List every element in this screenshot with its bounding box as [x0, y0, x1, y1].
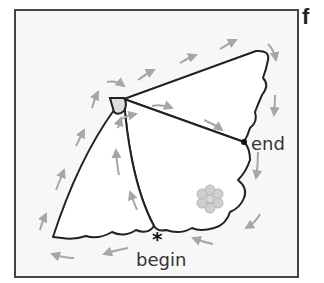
arrow-icon: [274, 95, 275, 115]
end-marker-icon: [241, 139, 247, 145]
begin-label: begin: [136, 249, 186, 270]
end-label: end: [251, 133, 285, 154]
begin-marker-icon: *: [152, 227, 163, 251]
diagram-canvas: end * begin: [0, 0, 324, 283]
